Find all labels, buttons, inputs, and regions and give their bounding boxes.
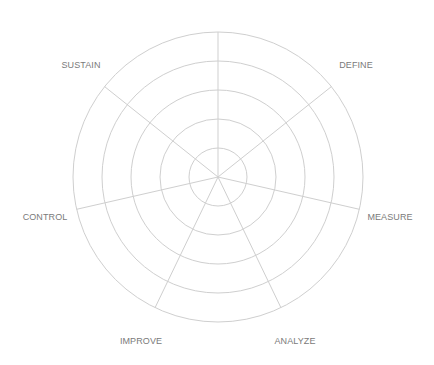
label-improve: IMPROVE (120, 336, 162, 346)
dmaic-wheel-diagram: DEFINE MEASURE ANALYZE IMPROVE CONTROL S… (0, 0, 434, 365)
spoke-analyze (218, 177, 281, 308)
label-control: CONTROL (23, 212, 68, 222)
spoke-measure (218, 177, 359, 209)
spoke-improve (155, 177, 218, 308)
label-analyze: ANALYZE (274, 336, 315, 346)
label-define: DEFINE (339, 60, 373, 70)
spokes (77, 32, 360, 308)
label-sustain: SUSTAIN (61, 60, 100, 70)
label-measure: MEASURE (367, 212, 412, 222)
spoke-control (77, 177, 218, 209)
